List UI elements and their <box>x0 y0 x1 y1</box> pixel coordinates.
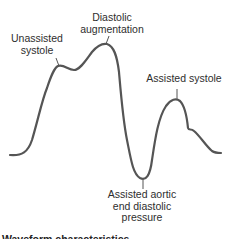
pressure-waveform-curve <box>10 44 221 179</box>
label-assisted-aortic-end-diastolic-pressure: Assisted aortic end diastolic pressure <box>105 189 179 224</box>
iabp-waveform-diagram: Unassisted systole Diastolic augmentatio… <box>0 0 229 239</box>
label-assisted-systole: Assisted systole <box>142 73 226 85</box>
label-unassisted-systole: Unassisted systole <box>2 33 72 56</box>
leader-diastolic-augmentation <box>106 36 109 44</box>
leader-unassisted-systole <box>56 58 59 66</box>
figure-caption-cropped: Waveform characteristics <box>2 233 129 239</box>
label-diastolic-augmentation: Diastolic augmentation <box>77 12 147 35</box>
